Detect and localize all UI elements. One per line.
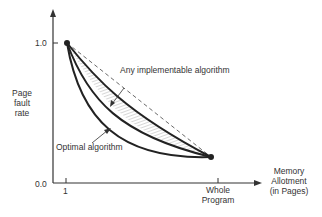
y-axis-arrow-icon	[50, 9, 56, 17]
ylabel-line3: rate	[8, 108, 36, 118]
dashed-reference-line	[67, 43, 211, 157]
xlabel-line1: Memory	[262, 166, 316, 176]
x-axis-arrow-icon	[254, 180, 262, 186]
implementable-annotation: Any implementable algorithm	[120, 65, 230, 75]
x-tick-label-whole: Whole Program	[200, 185, 236, 205]
start-point	[64, 40, 70, 46]
x-axis-title: Memory Allotment (in Pages)	[262, 166, 316, 196]
xlabel-line3: (in Pages)	[262, 186, 316, 196]
end-point	[208, 154, 214, 160]
ylabel-line2: fault	[8, 98, 36, 108]
y-tick-label-bottom: 0.0	[35, 179, 47, 189]
xlabel-line2: Allotment	[262, 176, 316, 186]
optimal-annotation: Optimal algorithm	[56, 142, 123, 152]
y-tick-label-top: 1.0	[35, 38, 47, 48]
y-axis-title: Page fault rate	[8, 88, 36, 118]
whole-label: Whole	[200, 185, 236, 195]
ylabel-line1: Page	[8, 88, 36, 98]
program-label: Program	[200, 195, 236, 205]
x-tick-label-start: 1	[63, 186, 68, 196]
